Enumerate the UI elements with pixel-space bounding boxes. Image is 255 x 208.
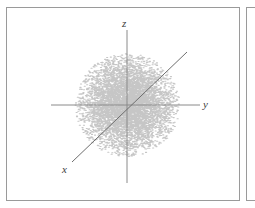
main-plot-panel <box>6 7 240 201</box>
figure-root: z y x <box>0 0 255 208</box>
adjacent-panel-clipped <box>246 7 255 201</box>
